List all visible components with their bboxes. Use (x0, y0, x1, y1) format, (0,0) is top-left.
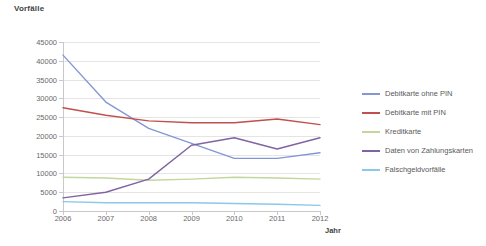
line-chart: Vorfälle Jahr 05000100001500020000250003… (0, 0, 486, 246)
legend-item[interactable]: Kreditkarte (362, 122, 484, 141)
legend-swatch (362, 131, 380, 133)
x-axis-title: Jahr (325, 226, 341, 235)
series-line (63, 55, 320, 158)
x-axis-label: 2007 (86, 214, 126, 223)
legend-item[interactable]: Debitkarte mit PIN (362, 103, 484, 122)
x-axis-label: 2009 (172, 214, 212, 223)
legend-label: Debitkarte mit PIN (385, 108, 446, 117)
legend-label: Daten von Zahlungskarten (385, 146, 473, 155)
y-axis-label: 10000 (13, 169, 57, 178)
legend-swatch (362, 169, 380, 171)
legend-item[interactable]: Daten von Zahlungskarten (362, 141, 484, 160)
y-axis-label: 45000 (13, 38, 57, 47)
x-axis-label: 2008 (129, 214, 169, 223)
legend-swatch (362, 112, 380, 114)
series-line (63, 177, 320, 180)
x-axis-label: 2012 (300, 214, 340, 223)
legend-item[interactable]: Debitkarte ohne PIN (362, 84, 484, 103)
legend-item[interactable]: Falschgeldvorfälle (362, 160, 484, 179)
series-line (63, 202, 320, 206)
legend-swatch (362, 150, 380, 152)
x-axis-label: 2010 (214, 214, 254, 223)
series-lines (63, 42, 320, 211)
y-axis-label: 40000 (13, 56, 57, 65)
y-axis-title: Vorfälle (14, 4, 44, 13)
legend-label: Falschgeldvorfälle (385, 165, 445, 174)
x-axis-label: 2011 (257, 214, 297, 223)
y-axis-label: 15000 (13, 150, 57, 159)
legend: Debitkarte ohne PINDebitkarte mit PINKre… (362, 84, 484, 179)
y-axis-label: 5000 (13, 188, 57, 197)
series-line (63, 138, 320, 198)
x-axis-label: 2006 (43, 214, 83, 223)
legend-swatch (362, 93, 380, 95)
y-axis-label: 25000 (13, 113, 57, 122)
x-axis-line (63, 211, 320, 212)
y-axis-label: 30000 (13, 94, 57, 103)
legend-label: Kreditkarte (385, 127, 421, 136)
plot-area (63, 42, 320, 211)
series-line (63, 108, 320, 125)
y-axis-label: 35000 (13, 75, 57, 84)
legend-label: Debitkarte ohne PIN (385, 89, 453, 98)
y-axis-label: 20000 (13, 131, 57, 140)
